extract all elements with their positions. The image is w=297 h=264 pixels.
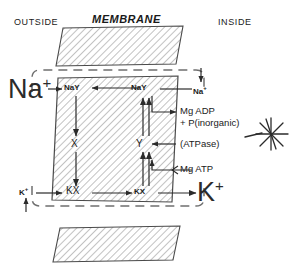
label-kx-left: KX xyxy=(66,186,79,196)
label-potassium-outside: K+ xyxy=(19,186,28,197)
label-potassium-inside: K+ xyxy=(197,178,224,206)
potassium-outside-charge: + xyxy=(25,186,29,192)
header-inside: INSIDE xyxy=(218,18,252,27)
label-phosphate: + P(inorganic) xyxy=(180,118,239,128)
starburst-icon xyxy=(245,118,288,150)
label-mg-adp: Mg ADP xyxy=(180,106,215,116)
label-kx-right: KX xyxy=(134,188,145,196)
sodium-inside-symbol: Na xyxy=(193,87,203,96)
label-sodium-inside: Na+ xyxy=(193,85,207,96)
header-outside: OUTSIDE xyxy=(14,18,58,27)
label-sodium-outside: Na+ xyxy=(8,75,51,103)
label-atpase: (ATPase) xyxy=(180,139,219,149)
diagram-vector-layer xyxy=(0,0,297,264)
sodium-outside-charge: + xyxy=(43,74,52,91)
header-membrane: MEMBRANE xyxy=(92,14,161,25)
membrane-block-bottom xyxy=(53,226,180,262)
label-nay-right: NaY xyxy=(131,84,147,92)
label-carrier-y: Y xyxy=(136,139,143,149)
sodium-inside-charge: + xyxy=(203,85,207,91)
potassium-inside-charge: + xyxy=(215,177,224,194)
label-mg-atp: Mg ATP xyxy=(180,164,213,174)
label-carrier-x: X xyxy=(71,139,78,149)
label-nay-left: NaY xyxy=(64,84,80,92)
diagram-canvas: OUTSIDE MEMBRANE INSIDE Na+ Na+ NaY NaY … xyxy=(0,0,297,264)
sodium-outside-symbol: Na xyxy=(8,74,43,104)
potassium-inside-symbol: K xyxy=(197,177,215,207)
membrane-block-top xyxy=(56,26,183,66)
